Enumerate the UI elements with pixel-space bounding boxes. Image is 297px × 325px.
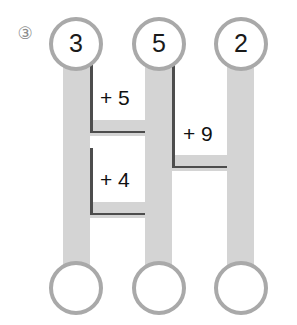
connector-lower-left (63, 202, 172, 218)
brace-vertical-plus-5 (90, 62, 93, 133)
top-circle-column-3[interactable]: 2 (214, 17, 268, 71)
brace-vertical-plus-9 (172, 62, 175, 168)
connector-right (145, 155, 254, 171)
bottom-circle-column-3[interactable] (214, 261, 268, 315)
problem-number: ③ (12, 20, 38, 46)
bottom-circle-column-2[interactable] (132, 261, 186, 315)
top-circle-value-2: 5 (152, 31, 166, 56)
connector-upper-left (63, 120, 172, 136)
brace-horizontal-plus-5 (90, 131, 145, 134)
brace-vertical-plus-4 (90, 148, 93, 215)
brace-horizontal-plus-9 (172, 166, 227, 169)
top-circle-column-2[interactable]: 5 (132, 17, 186, 71)
bar-column-1 (63, 62, 90, 270)
brace-horizontal-plus-4 (90, 213, 145, 216)
bottom-circle-column-1[interactable] (49, 261, 103, 315)
top-circle-value-3: 2 (234, 31, 248, 56)
delta-label-plus-9: + 9 (183, 123, 213, 144)
worksheet-diagram: ③ + 5 + 4 + 9 3 5 2 (0, 0, 297, 325)
delta-label-plus-4: + 4 (100, 169, 130, 190)
top-circle-column-1[interactable]: 3 (49, 17, 103, 71)
delta-label-plus-5: + 5 (100, 87, 130, 108)
top-circle-value-1: 3 (69, 31, 83, 56)
